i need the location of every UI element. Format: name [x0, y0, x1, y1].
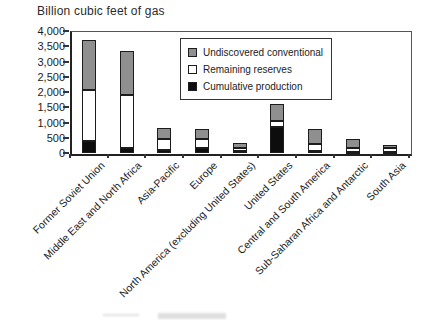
- bar-segment: [270, 127, 284, 153]
- bar-segment: [157, 139, 171, 150]
- bar-segment: [308, 144, 322, 151]
- y-axis-tick: [63, 61, 69, 63]
- y-axis-tick: [63, 137, 69, 139]
- y-axis-tick-label: 0: [13, 148, 65, 159]
- x-axis-tick: [408, 154, 410, 158]
- legend: Undiscovered conventional Remaining rese…: [180, 38, 332, 100]
- bar-segment: [195, 139, 209, 148]
- bar-segment: [157, 128, 171, 139]
- cumulative-production-swatch-icon: [188, 82, 197, 91]
- bar-segment: [195, 148, 209, 153]
- y-axis-tick-label: 4,000: [13, 26, 65, 37]
- remaining-reserves-swatch-icon: [188, 65, 197, 74]
- y-axis-tick: [63, 30, 69, 32]
- bar-segment: [270, 104, 284, 121]
- bar-segment: [233, 151, 247, 153]
- y-axis-tick-label: 3,000: [13, 57, 65, 68]
- legend-item-cumulative: Cumulative production: [188, 78, 324, 95]
- x-axis-tick: [107, 154, 109, 158]
- legend-label: Undiscovered conventional: [203, 47, 323, 58]
- bar-segment: [120, 51, 134, 95]
- x-axis-tick: [144, 154, 146, 158]
- y-axis-tick: [63, 91, 69, 93]
- bar-segment: [383, 145, 397, 147]
- undiscovered-conventional-swatch-icon: [188, 48, 197, 57]
- x-axis-tick: [257, 154, 259, 158]
- x-axis-tick: [370, 154, 372, 158]
- cutoff-caption-fragment: [158, 313, 226, 319]
- bar-segment: [346, 148, 360, 153]
- y-axis-tick: [63, 122, 69, 124]
- bar-segment: [120, 95, 134, 148]
- cutoff-caption-fragment: [103, 314, 139, 316]
- bar-segment: [157, 150, 171, 153]
- y-axis-tick-label: 2,000: [13, 87, 65, 98]
- y-axis-tick: [63, 106, 69, 108]
- x-axis-tick: [220, 154, 222, 158]
- legend-item-undiscovered: Undiscovered conventional: [188, 44, 324, 61]
- bar-segment: [383, 152, 397, 154]
- bar-segment: [270, 121, 284, 127]
- bar-segment: [195, 129, 209, 140]
- x-axis-category-label: South Asia: [364, 159, 408, 203]
- chart-page: { "title": "Billion cubic feet of gas", …: [0, 0, 428, 320]
- legend-label: Remaining reserves: [203, 64, 292, 75]
- x-axis-tick: [295, 154, 297, 158]
- bar-segment: [308, 151, 322, 153]
- x-axis-category-label: Europe: [187, 159, 219, 191]
- y-axis-tick-label: 1,000: [13, 118, 65, 129]
- bar-segment: [233, 148, 247, 152]
- bar-segment: [233, 143, 247, 148]
- bar-segment: [346, 152, 360, 154]
- bar-segment: [82, 40, 96, 90]
- x-axis-tick: [182, 154, 184, 158]
- bar-segment: [82, 90, 96, 140]
- bar-segment: [308, 129, 322, 144]
- bar-segment: [82, 141, 96, 153]
- bar-segment: [346, 139, 360, 147]
- legend-item-remaining: Remaining reserves: [188, 61, 324, 78]
- x-axis-tick: [333, 154, 335, 158]
- y-axis-tick-label: 2,500: [13, 72, 65, 83]
- x-axis-category-label: North America (excluding United States): [116, 159, 257, 300]
- y-axis-tick-label: 500: [13, 133, 65, 144]
- x-axis-tick: [69, 154, 71, 158]
- y-axis-tick-label: 3,500: [13, 41, 65, 52]
- y-axis-tick-label: 1,500: [13, 102, 65, 113]
- chart-title: Billion cubic feet of gas: [37, 4, 165, 18]
- legend-label: Cumulative production: [203, 81, 303, 92]
- bar-segment: [120, 148, 134, 153]
- y-axis-tick: [63, 76, 69, 78]
- y-axis-tick: [63, 45, 69, 47]
- bar-segment: [383, 148, 397, 153]
